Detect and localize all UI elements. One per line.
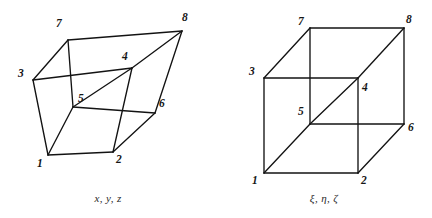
vertex-label-distorted-hexahedron-1: 1	[37, 158, 43, 170]
vertex-label-reference-cube-5: 5	[298, 106, 304, 118]
cube-edge-5-6	[73, 107, 155, 113]
cube-edge-8-7	[68, 31, 182, 40]
cube-edge-1-5	[264, 124, 310, 173]
vertex-label-reference-cube-3: 3	[249, 66, 255, 78]
vertex-label-reference-cube-1: 1	[252, 175, 258, 187]
cube-edge-4-8	[358, 28, 404, 78]
cube-edge-2-6	[113, 113, 155, 152]
vertex-label-distorted-hexahedron-5: 5	[78, 93, 84, 105]
vertex-label-distorted-hexahedron-3: 3	[18, 68, 24, 80]
diagram-page: x, y, z 12345678 ξ, η, ζ 12345678	[0, 0, 432, 218]
figure-reference-cube: ξ, η, ζ 12345678	[216, 0, 432, 218]
reference-cube-drawing	[216, 0, 432, 218]
distorted-hexahedron-drawing	[0, 0, 216, 218]
cube-edge-1-2	[48, 152, 113, 155]
vertex-label-reference-cube-6: 6	[408, 122, 414, 134]
vertex-label-distorted-hexahedron-4: 4	[122, 51, 128, 63]
vertex-label-distorted-hexahedron-6: 6	[159, 98, 165, 110]
cube-edge-3-1	[33, 80, 48, 155]
cube-edge-4-8	[132, 31, 182, 68]
cube-edge-7-3	[33, 40, 68, 80]
cube-edge-5-4	[310, 78, 358, 124]
vertex-label-distorted-hexahedron-8: 8	[182, 12, 188, 24]
figure-distorted-hexahedron: x, y, z 12345678	[0, 0, 216, 218]
figure-caption-natural-coords: ξ, η, ζ	[216, 192, 432, 204]
vertex-label-reference-cube-7: 7	[298, 16, 304, 28]
cube-edge-2-6	[358, 124, 404, 173]
cube-edge-1-5	[48, 107, 73, 155]
vertex-label-reference-cube-4: 4	[362, 82, 368, 94]
cube-edge-7-3	[264, 28, 310, 78]
vertex-label-distorted-hexahedron-7: 7	[56, 18, 62, 30]
vertex-label-reference-cube-2: 2	[361, 175, 367, 187]
vertex-label-reference-cube-8: 8	[406, 14, 412, 26]
figure-caption-physical-coords: x, y, z	[0, 192, 216, 204]
cube-edge-5-7	[68, 40, 73, 107]
vertex-label-distorted-hexahedron-2: 2	[116, 154, 122, 166]
